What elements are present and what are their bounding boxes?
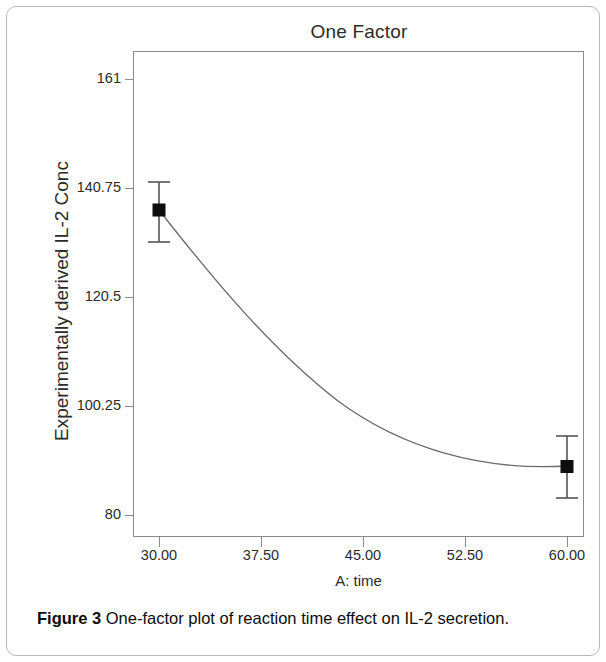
x-tick-label-30: 30.00 (119, 547, 199, 563)
x-tick-mark-45 (363, 537, 364, 547)
y-tick-161: 161 (61, 79, 121, 80)
y-tick-mark-100-25 (125, 406, 134, 407)
data-point-marker-2 (561, 460, 574, 473)
figure-card: One Factor 161 140 (6, 6, 600, 656)
y-axis-title: Experimentally derived IL-2 Conc (51, 91, 73, 511)
data-point-marker-1 (153, 204, 166, 217)
y-tick-80: 80 (61, 515, 121, 516)
x-tick-mark-37-5 (261, 537, 262, 547)
x-tick-label-60: 60.00 (527, 547, 606, 563)
x-tick-mark-30 (159, 537, 160, 547)
y-tick-mark-140-75 (125, 188, 134, 189)
y-tick-label-161: 161 (61, 71, 121, 86)
chart-area: One Factor 161 140 (7, 7, 606, 599)
prediction-curve (159, 210, 567, 467)
x-tick-mark-52-5 (465, 537, 466, 547)
y-tick-mark-120-5 (125, 297, 134, 298)
x-tick-label-45: 45.00 (323, 547, 403, 563)
plot-canvas (133, 51, 584, 537)
figure-caption: Figure 3 One-factor plot of reaction tim… (37, 607, 577, 631)
x-tick-label-52-5: 52.50 (425, 547, 505, 563)
x-tick-mark-60 (567, 537, 568, 547)
chart-title: One Factor (133, 21, 585, 43)
x-tick-label-37-5: 37.50 (221, 547, 301, 563)
x-axis-title: A: time (133, 572, 584, 589)
figure-caption-text: One-factor plot of reaction time effect … (106, 609, 509, 627)
figure-caption-label: Figure 3 (37, 609, 101, 627)
y-tick-mark-80 (125, 515, 134, 516)
y-tick-mark-161 (125, 79, 134, 80)
